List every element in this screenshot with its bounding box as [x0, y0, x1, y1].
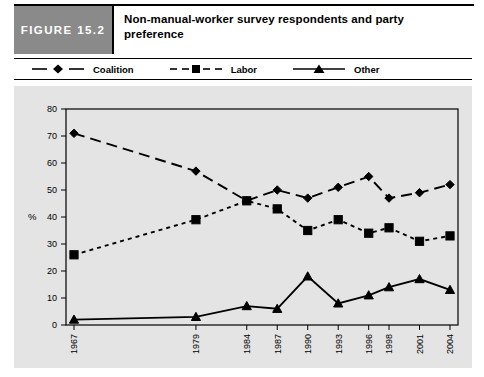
- x-axis-tick-label: 1967: [69, 334, 79, 354]
- y-axis-tick-label: 20: [47, 266, 57, 276]
- data-point-labor-1967: [70, 251, 78, 259]
- legend-label-labor: Labor: [231, 64, 257, 75]
- x-axis-tick-label: 1984: [242, 334, 252, 354]
- data-point-coalition-1987: [273, 186, 281, 194]
- data-point-labor-1993: [334, 216, 342, 224]
- data-point-coalition-2004: [446, 180, 454, 188]
- data-point-labor-1998: [385, 224, 393, 232]
- data-point-labor-1996: [365, 229, 373, 237]
- data-point-labor-1990: [304, 226, 312, 234]
- y-axis-tick-label: 0: [52, 320, 57, 330]
- series-line-other: [74, 276, 450, 319]
- figure-header: FIGURE 15.2 Non-manual-worker survey res…: [14, 6, 474, 54]
- legend-item-other: Other: [291, 63, 379, 75]
- figure-container: FIGURE 15.2 Non-manual-worker survey res…: [0, 0, 484, 377]
- line-chart: 01020304050607080%1967197919841987199019…: [14, 86, 472, 368]
- chart-plot-region: 01020304050607080%1967197919841987199019…: [14, 86, 472, 368]
- x-axis-tick-label: 2004: [445, 334, 455, 354]
- data-point-labor-2004: [446, 232, 454, 240]
- data-point-coalition-1967: [70, 129, 78, 137]
- data-point-labor-2001: [415, 237, 423, 245]
- y-axis-tick-label: 80: [47, 104, 57, 114]
- square-marker-icon: [168, 63, 224, 75]
- y-axis-title: %: [28, 211, 37, 222]
- data-point-labor-1984: [243, 197, 251, 205]
- data-point-coalition-2001: [415, 189, 423, 197]
- diamond-marker-icon: [30, 63, 86, 75]
- x-axis-tick-label: 1987: [273, 334, 283, 354]
- data-point-labor-1987: [273, 205, 281, 213]
- legend-label-coalition: Coalition: [93, 64, 134, 75]
- x-axis-tick-label: 1998: [384, 334, 394, 354]
- x-axis-tick-label: 2001: [415, 334, 425, 354]
- y-axis-tick-label: 10: [47, 293, 57, 303]
- data-point-coalition-1993: [334, 183, 342, 191]
- y-axis-tick-label: 40: [47, 212, 57, 222]
- x-axis-tick-label: 1996: [364, 334, 374, 354]
- y-axis-tick-label: 50: [47, 185, 57, 195]
- chart-legend: Coalition Labor Other: [14, 58, 472, 80]
- data-point-labor-1979: [192, 216, 200, 224]
- triangle-marker-icon: [291, 63, 347, 75]
- series-line-coalition: [74, 133, 450, 201]
- legend-item-coalition: Coalition: [30, 63, 134, 75]
- data-point-coalition-1996: [365, 172, 373, 180]
- x-axis-tick-label: 1979: [191, 334, 201, 354]
- y-axis-tick-label: 30: [47, 239, 57, 249]
- figure-title: Non-manual-worker survey respondents and…: [114, 6, 474, 54]
- data-point-other-2001: [415, 275, 424, 283]
- x-axis-tick-label: 1993: [334, 334, 344, 354]
- x-axis-tick-label: 1990: [303, 334, 313, 354]
- plot-border: [66, 109, 458, 325]
- y-axis-tick-label: 60: [47, 158, 57, 168]
- y-axis-tick-label: 70: [47, 131, 57, 141]
- data-point-coalition-1979: [192, 167, 200, 175]
- figure-number-tag: FIGURE 15.2: [14, 6, 114, 54]
- legend-label-other: Other: [354, 64, 379, 75]
- data-point-coalition-1990: [304, 194, 312, 202]
- legend-item-labor: Labor: [168, 63, 257, 75]
- data-point-other-1990: [303, 272, 312, 280]
